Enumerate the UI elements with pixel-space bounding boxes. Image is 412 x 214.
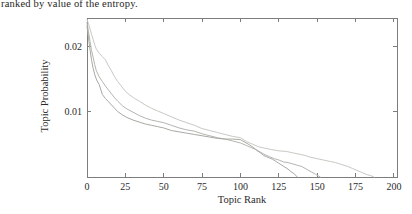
x-axis-title: Topic Rank [218,194,267,205]
x-tick-label: 200 [386,181,401,192]
x-tick-label: 125 [271,181,286,192]
entropy-rank-figure: 02550751001251501752000.010.02 Topic Pro… [0,0,412,214]
x-tick-label: 0 [85,181,90,192]
x-tick-label: 50 [159,181,169,192]
chart-canvas: 02550751001251501752000.010.02 [0,0,412,214]
x-tick-label: 75 [197,181,207,192]
x-tick-label: 175 [348,181,363,192]
y-tick-label: 0.01 [65,106,83,117]
x-tick-label: 25 [120,181,130,192]
y-axis-title: Topic Probability [39,59,50,132]
series-line-topic-distribution-medium-tail [87,23,320,177]
y-tick-label: 0.02 [65,41,83,52]
x-tick-label: 100 [233,181,248,192]
series-line-topic-distribution-long-tail [87,19,374,177]
paper-figure-page: ranked by value of the entropy. 02550751… [0,0,412,214]
x-tick-label: 150 [310,181,325,192]
